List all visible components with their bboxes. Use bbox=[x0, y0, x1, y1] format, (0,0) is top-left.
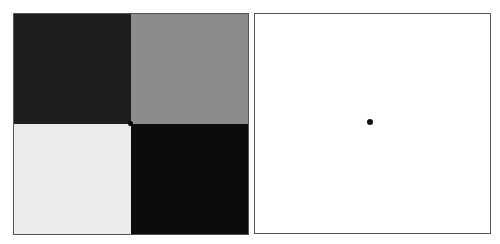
fixation-panel bbox=[254, 13, 491, 234]
checkerboard-panel bbox=[13, 13, 249, 235]
fixation-dot bbox=[367, 119, 373, 125]
center-mark bbox=[128, 121, 133, 126]
quadrant-bottom-right bbox=[131, 124, 248, 234]
quadrant-top-left bbox=[14, 14, 131, 124]
quadrant-top-right bbox=[131, 14, 248, 124]
quadrant-bottom-left bbox=[14, 124, 131, 234]
